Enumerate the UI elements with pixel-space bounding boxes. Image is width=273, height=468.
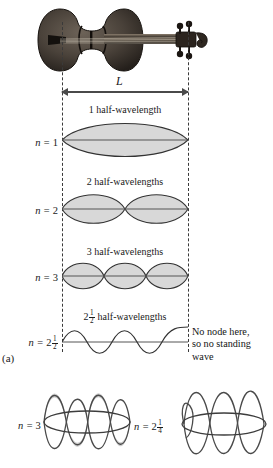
- no-node-annotation: No node here, so no standing wave: [192, 326, 272, 363]
- mode-label-value: 2: [152, 421, 157, 432]
- figure-page: becau wave wher T sligh statio ever, fer…: [0, 0, 273, 468]
- mode-label-n2half: n = 212: [2, 336, 58, 352]
- standing-wave-n2: [62, 190, 188, 228]
- caption-suffix: half-wavelengths: [95, 311, 166, 322]
- label-fraction: 14: [157, 420, 163, 436]
- annotation-line: wave: [192, 351, 272, 363]
- mode-caption-n2: 2 half-wavelengths: [62, 176, 188, 187]
- mode-label-value: 2: [46, 337, 51, 348]
- annotation-line: No node here,: [192, 326, 272, 338]
- circular-standing-wave-n2quarter: [174, 380, 272, 464]
- mode-label-prefix: n =: [35, 205, 53, 216]
- circular-mode-label-n2quarter: n = 214: [134, 420, 163, 436]
- fraction-denominator: 4: [157, 428, 163, 435]
- mode-label-prefix: n =: [134, 421, 152, 432]
- panel-label-a: (a): [2, 352, 14, 364]
- mode-label-prefix: n =: [29, 337, 47, 348]
- figure-a: L 1 half-wavelength n = 1 2 half-wavelen…: [0, 0, 219, 372]
- mode-caption-n3: 3 half-wavelengths: [62, 246, 188, 257]
- mode-label-prefix: n =: [35, 137, 53, 148]
- mode-label-prefix: n =: [35, 272, 53, 283]
- mode-label-value: 3: [53, 272, 58, 283]
- mode-label-n3: n = 3: [2, 272, 58, 283]
- caption-value: 2: [84, 311, 89, 322]
- boundary-line-left: [62, 22, 63, 352]
- mode-label-prefix: n =: [18, 420, 36, 431]
- violin-photograph: [4, 4, 208, 76]
- mode-label-n2: n = 2: [2, 205, 58, 216]
- fraction-denominator: 2: [52, 344, 58, 351]
- mode-label-value: 1: [53, 137, 58, 148]
- length-dimension-arrow: [62, 91, 188, 93]
- boundary-line-right: [188, 22, 189, 352]
- mode-caption-n1: 1 half-wavelength: [62, 104, 188, 115]
- standing-wave-n1: [62, 118, 188, 162]
- length-label: L: [116, 74, 123, 89]
- standing-wave-n3: [62, 259, 188, 293]
- mode-label-value: 2: [53, 205, 58, 216]
- annotation-line: so no standing: [192, 338, 272, 350]
- circular-standing-wave-n3: [36, 382, 136, 462]
- mode-label-n1: n = 1: [2, 137, 58, 148]
- standing-wave-n2half: [62, 324, 188, 360]
- label-fraction: 12: [52, 336, 58, 352]
- figure-b: n = 3 n = 214 (b): [0, 376, 273, 468]
